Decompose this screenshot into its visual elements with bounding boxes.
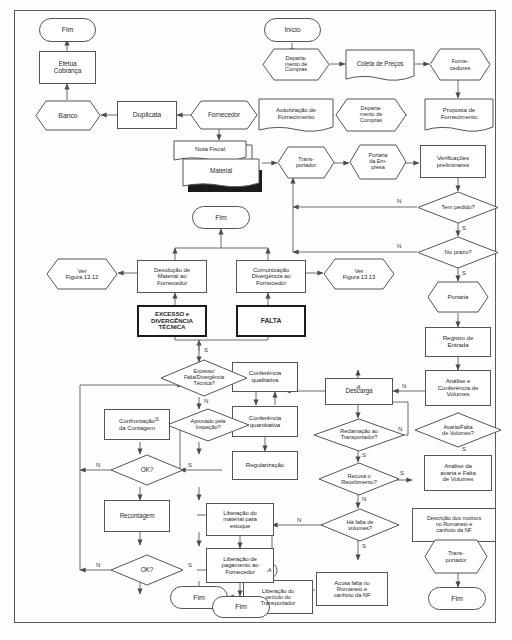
node-label: Liberação de pagamento ao Fornecedor: [221, 556, 258, 575]
node-analise-conferencia-volumes[interactable]: Análise e Conferência de Volumes: [425, 370, 491, 406]
node-banco[interactable]: Banco: [35, 100, 101, 131]
node-label: Liberação do material para estoque: [223, 510, 257, 529]
node-reclamacao-transportador[interactable]: Reclamação ao Transportador?: [313, 418, 405, 452]
node-ver-figura-13-13[interactable]: Ver Figura 13.13: [323, 258, 395, 290]
node-label: Aprovado pela Inspeção?: [191, 419, 226, 431]
branch-label-tem-pedido-yes: S: [462, 225, 466, 231]
node-material[interactable]: Material: [182, 158, 260, 186]
node-label: Verificações preliminares: [437, 155, 470, 168]
node-confrontacao-contagem[interactable]: Confrontação da Contagem: [104, 409, 170, 440]
branch-label-falta-vol-yes: S: [362, 543, 366, 549]
node-coleta-de-precos[interactable]: Coleta de Preços: [345, 49, 415, 81]
node-ok-1[interactable]: OK?: [110, 454, 184, 486]
node-fim-bottom-mid-left[interactable]: Fim: [212, 596, 270, 618]
node-aprovado-inspecao[interactable]: Aprovado pela Inspeção?: [166, 408, 250, 442]
node-recusa-recebimento[interactable]: Recusa o Recebimento?: [318, 462, 400, 496]
node-ha-falta-volumes[interactable]: Há falta de volumes?: [320, 508, 400, 542]
node-label: FALTA: [261, 317, 281, 324]
branch-label-excesso-yes: S: [204, 347, 208, 353]
node-label: Proposta de Fornecimento: [441, 107, 478, 120]
node-liberacao-pagamento[interactable]: Liberação de pagamento ao Fornecedor: [206, 548, 274, 583]
node-label: Análise e Conferência de Volumes: [438, 378, 479, 398]
node-label: Comunicação Divergência ao Fornecedor: [251, 267, 290, 286]
branch-label-reclamacao-no: N: [398, 426, 402, 432]
node-label: Portaria: [448, 294, 469, 301]
node-label: OK?: [141, 567, 154, 574]
branch-label-ok1-yes: S: [188, 462, 192, 468]
node-departamento-compras-2[interactable]: Departa- mento de Compras: [335, 98, 407, 132]
node-analise-avaria-falta[interactable]: Análise da avaria e Falta de Volumes: [424, 455, 492, 491]
node-label: Trans- portador: [446, 550, 467, 562]
node-label: Material: [210, 168, 232, 175]
node-verificacoes-preliminares[interactable]: Verificações preliminares: [420, 145, 486, 178]
branch-label-avaria-yes: S: [462, 446, 466, 452]
node-devolucao-material[interactable]: Devolução de Material ao Fornecedor: [137, 260, 207, 293]
node-nota-fiscal[interactable]: Nota Fiscal: [173, 140, 247, 160]
node-transportador-top[interactable]: Trans- portador: [277, 146, 335, 179]
node-label: Fim: [235, 603, 246, 610]
node-duplicata[interactable]: Duplicata: [117, 101, 177, 129]
branch-label-recusa-no: N: [362, 496, 366, 502]
node-label: Início: [284, 26, 300, 33]
node-label: Recontagem: [120, 513, 155, 520]
node-label: Forne- cedores: [450, 58, 471, 71]
node-label: Avaria/Falta de Volumes?: [442, 424, 474, 436]
node-label: Duplicata: [133, 111, 161, 118]
node-ver-figura-13-12[interactable]: Ver Figura 13.12: [46, 258, 118, 290]
node-fim-top-left[interactable]: Fim: [39, 18, 96, 42]
node-tem-pedido[interactable]: Tem pedido?: [417, 191, 499, 224]
node-portaria[interactable]: Portaria: [427, 281, 489, 313]
branch-label-falta-vol-no: N: [297, 517, 301, 523]
node-avaria-falta-volumes[interactable]: Avaria/Falta de Volumes?: [414, 412, 502, 448]
node-label: Fim: [193, 594, 204, 601]
node-label: Conferência qualitativa: [249, 370, 281, 383]
node-comunicacao-divergencia[interactable]: Comunicação Divergência ao Fornecedor: [236, 260, 306, 293]
node-label: Trans- portador: [296, 157, 316, 169]
node-ok-2[interactable]: OK?: [110, 554, 184, 586]
node-inicio[interactable]: Início: [264, 18, 321, 42]
node-label: Fim: [62, 26, 73, 33]
node-label: Recusa o Recebimento?: [341, 473, 376, 485]
node-label: Excesso/ Falta/Divergência Técnica?: [184, 369, 224, 386]
node-label: Portaria da Em- presa: [369, 153, 388, 171]
node-autorizacao-fornecimento[interactable]: Autorização de Fornecimento: [258, 98, 334, 132]
node-portaria-empresa[interactable]: Portaria da Em- presa: [349, 144, 407, 180]
node-descarga[interactable]: Descarga: [325, 378, 393, 405]
node-no-prazo[interactable]: No prazo?: [417, 236, 499, 269]
node-falta[interactable]: FALTA: [236, 305, 306, 337]
node-label: Fim: [451, 595, 462, 602]
node-efetua-cobranca[interactable]: Efetua Cobrança: [39, 51, 96, 84]
node-fim-mid[interactable]: Fim: [192, 206, 250, 229]
node-label: Acusa falta no Romaneio e canhoto da NF: [334, 580, 371, 598]
node-label: Banco: [58, 112, 77, 119]
node-label: Confrontação da Contagem: [119, 418, 155, 431]
node-fornecedores[interactable]: Forne- cedores: [429, 48, 491, 81]
node-label: Análise da avaria e Falta de Volumes: [440, 463, 476, 482]
node-excesso-falta-divergencia[interactable]: Excesso/ Falta/Divergência Técnica?: [160, 359, 248, 397]
branch-label-excesso-no: N: [204, 398, 208, 404]
branch-label-recusa-yes: S: [400, 470, 404, 476]
branch-label-no-prazo-yes: S: [462, 270, 466, 276]
node-label: Departa- mento de Compras: [360, 106, 383, 124]
node-label: Regularização: [246, 462, 284, 469]
node-label: Efetua Cobrança: [54, 61, 81, 75]
node-transportador-right[interactable]: Trans- portador: [424, 539, 488, 574]
node-acusa-falta[interactable]: Acusa falta no Romaneio e canhoto da NF: [316, 572, 388, 606]
node-regularizacao[interactable]: Regularização: [232, 451, 298, 480]
node-label: Conferência quantitativa: [249, 415, 281, 428]
node-proposta-fornecimento[interactable]: Proposta de Fornecimento: [424, 98, 494, 132]
node-excesso-divergencia-tecnica[interactable]: EXCESSO e DIVERGÊNCIA TÉCNICA: [137, 305, 207, 337]
node-label: Ver Figura 13.13: [343, 268, 376, 281]
node-label: Devolução de Material ao Fornecedor: [154, 267, 190, 286]
node-registro-entrada[interactable]: Registro de Entrada: [425, 327, 491, 357]
node-departamento-compras-1[interactable]: Departa- mento de Compras: [262, 48, 330, 81]
node-fim-bottom-right[interactable]: Fim: [428, 587, 486, 610]
node-label: No prazo?: [445, 249, 472, 255]
node-descricao-motivos[interactable]: Descrição dos motivos no Romaneio e canh…: [412, 508, 496, 542]
branch-label-ok1-no: N: [96, 462, 100, 468]
node-recontagem[interactable]: Recontagem: [104, 500, 170, 532]
node-label: EXCESSO e DIVERGÊNCIA TÉCNICA: [151, 311, 193, 331]
node-label: Coleta de Preços: [357, 61, 404, 68]
node-fornecedor[interactable]: Fornecedor: [190, 100, 258, 130]
node-liberacao-material-estoque[interactable]: Liberação do material para estoque: [206, 503, 274, 536]
